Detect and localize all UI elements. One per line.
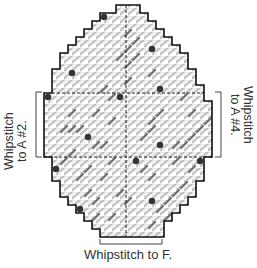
stitch-row bbox=[76, 37, 172, 45]
knot-dot bbox=[157, 142, 163, 148]
knot-dot bbox=[197, 158, 203, 164]
knot-dot bbox=[157, 86, 163, 92]
stitch-row bbox=[52, 157, 204, 165]
stitch-row bbox=[100, 229, 164, 237]
stitch-row bbox=[52, 85, 204, 93]
whipstitch-bottom-label: Whipstitch to F. bbox=[84, 248, 172, 261]
knot-dot bbox=[117, 94, 123, 100]
knot-dot bbox=[149, 46, 155, 52]
knot-dot bbox=[149, 198, 155, 204]
stitch-row bbox=[60, 181, 196, 189]
knot-dot bbox=[45, 94, 51, 100]
knot-dot bbox=[53, 166, 59, 172]
knot-dot bbox=[85, 134, 91, 140]
stitch-row bbox=[44, 133, 212, 141]
knot-dot bbox=[69, 70, 75, 76]
label-right-line2: to A #4. bbox=[228, 86, 241, 144]
stitch-row bbox=[76, 205, 180, 213]
right-bracket bbox=[215, 92, 221, 157]
stitch-row bbox=[92, 21, 156, 29]
stitch-chart bbox=[0, 0, 257, 268]
label-left-line2: to A #2. bbox=[16, 112, 29, 170]
label-right-line1: Whipstitch bbox=[241, 86, 254, 144]
bottom-bracket bbox=[100, 239, 162, 244]
knot-dot bbox=[133, 158, 139, 164]
stitch-row bbox=[44, 117, 212, 125]
knot-dot bbox=[77, 206, 83, 212]
stitch-row bbox=[44, 101, 212, 109]
knot-dot bbox=[101, 14, 107, 20]
whipstitch-left-label: Whipstitch to A #2. bbox=[3, 112, 29, 170]
whipstitch-right-label: Whipstitch to A #4. bbox=[228, 86, 254, 144]
left-bracket bbox=[36, 92, 42, 157]
stitch-row bbox=[116, 5, 140, 13]
stitch-row bbox=[52, 165, 204, 173]
stitch-row bbox=[52, 173, 204, 181]
